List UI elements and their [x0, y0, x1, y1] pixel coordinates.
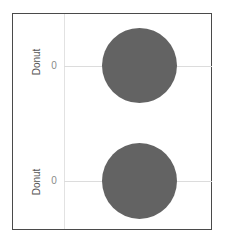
y-tick-label-panel-2: 0 — [49, 175, 59, 187]
facet-label-panel-2: Donut — [30, 162, 44, 202]
facet-label-panel-1: Donut — [30, 42, 44, 82]
y-axis-line — [64, 14, 65, 229]
data-point-bubble-panel-1[interactable] — [102, 28, 177, 103]
data-point-bubble-panel-2[interactable] — [102, 143, 177, 219]
y-tick-label-panel-1: 0 — [49, 60, 59, 72]
